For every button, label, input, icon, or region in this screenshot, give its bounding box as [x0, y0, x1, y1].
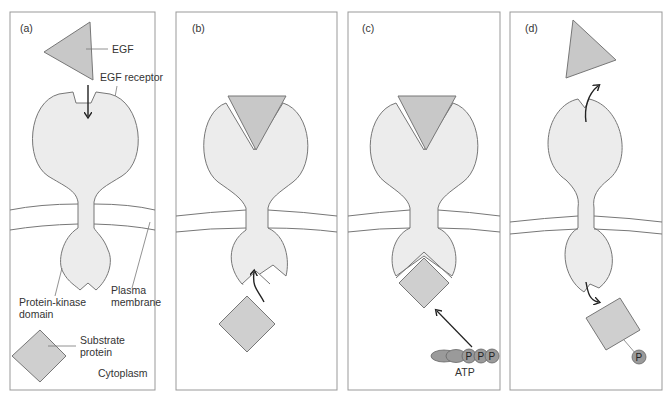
atp-molecule: P P P [431, 349, 499, 363]
protein-kinase-label-2: domain [19, 308, 54, 320]
plasma-membrane-label-2: membrane [111, 296, 161, 308]
panel-label-b: (b) [192, 22, 205, 34]
panel-c: (c) P P P ATP [348, 12, 500, 390]
atp-label: ATP [455, 366, 475, 378]
egf-receptor-diagram: (a) EGF EGF receptor Plasma membrane Pro… [0, 0, 672, 401]
atp-phosphate-1: P [466, 351, 473, 362]
substrate-label-1: Substrate [80, 334, 125, 346]
egf-label: EGF [112, 43, 134, 55]
egf-receptor-label: EGF receptor [100, 71, 164, 83]
panel-label-a: (a) [20, 22, 33, 34]
panel-b: (b) [176, 12, 337, 390]
atp-phosphate-3: P [489, 351, 496, 362]
plasma-membrane-label-1: Plasma [111, 284, 146, 296]
cytoplasm-label: Cytoplasm [98, 367, 148, 379]
protein-kinase-label-1: Protein-kinase [19, 296, 86, 308]
phosphate-label: P [636, 352, 643, 363]
panel-a: (a) EGF EGF receptor Plasma membrane Pro… [10, 12, 164, 390]
substrate-label-2: protein [80, 346, 112, 358]
panel-label-c: (c) [362, 22, 374, 34]
atp-phosphate-2: P [478, 351, 485, 362]
panel-d: (d) P [510, 12, 662, 390]
panel-label-d: (d) [525, 22, 538, 34]
